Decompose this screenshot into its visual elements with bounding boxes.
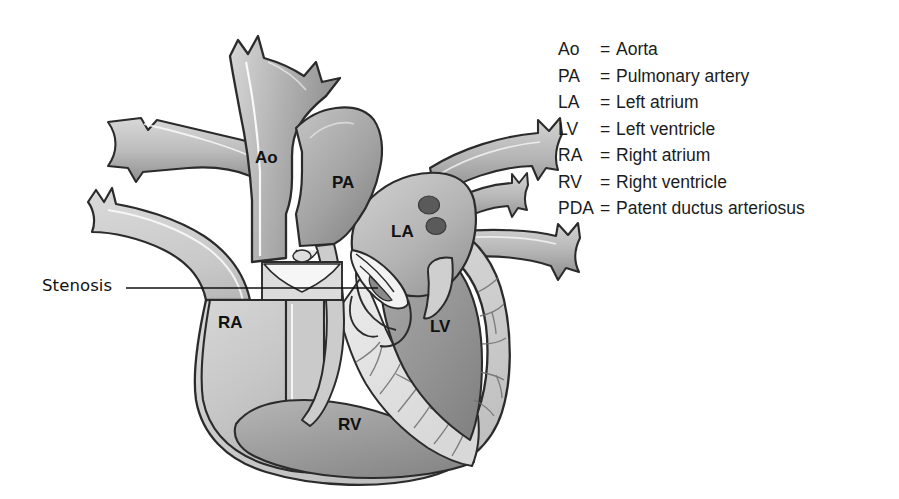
legend-abbr: LV [558,116,600,143]
legend-item: PDA = Patent ductus arteriosus [558,195,888,222]
legend-equals: = [600,169,616,196]
legend-item: RV = Right ventricle [558,169,888,196]
legend-abbr: LA [558,89,600,116]
legend-term: Left ventricle [616,116,715,143]
legend-abbr: RV [558,169,600,196]
legend-term: Pulmonary artery [616,63,749,90]
legend-item: RA = Right atrium [558,142,888,169]
pulmonary-artery-label: PA [332,173,354,192]
legend-item: LA = Left atrium [558,89,888,116]
legend-item: PA = Pulmonary artery [558,63,888,90]
legend-equals: = [600,36,616,63]
aorta-label: Ao [255,148,278,167]
left-ventricle-label: LV [430,317,451,336]
legend-abbr: PA [558,63,600,90]
pulmonary-vein-opening-upper [419,196,440,214]
abbreviation-legend: Ao = Aorta PA = Pulmonary artery LA = Le… [558,36,888,222]
figure-canvas: Ao PA LA RA LV RV Stenosis Ao = Aorta PA… [0,0,899,499]
legend-equals: = [600,116,616,143]
legend-abbr: PDA [558,195,600,222]
pulmonary-vein-opening-lower [426,218,446,235]
legend-term: Right ventricle [616,169,727,196]
legend-equals: = [600,63,616,90]
right-atrium-label: RA [218,313,243,332]
legend-term: Left atrium [616,89,699,116]
legend-item: LV = Left ventricle [558,116,888,143]
stenosis-callout-label: Stenosis [42,276,112,295]
legend-equals: = [600,195,616,222]
legend-abbr: Ao [558,36,600,63]
legend-term: Patent ductus arteriosus [616,195,805,222]
legend-equals: = [600,89,616,116]
left-atrium-label: LA [391,222,414,241]
legend-equals: = [600,142,616,169]
legend-abbr: RA [558,142,600,169]
right-ventricle-label: RV [338,415,362,434]
legend-term: Aorta [616,36,658,63]
legend-term: Right atrium [616,142,710,169]
legend-item: Ao = Aorta [558,36,888,63]
